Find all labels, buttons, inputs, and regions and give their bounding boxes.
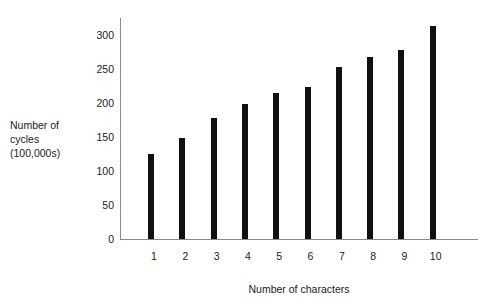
y-axis-line <box>120 18 121 240</box>
bar <box>336 67 342 239</box>
bar <box>242 104 248 239</box>
x-tick-label: 6 <box>299 251 323 262</box>
x-tick-label: 9 <box>392 251 416 262</box>
y-tick-label: 150 <box>74 132 114 143</box>
plot-area: 12345678910 <box>120 18 478 240</box>
y-tick-label: 100 <box>74 166 114 177</box>
bar <box>367 57 373 239</box>
y-tick-label: 200 <box>74 98 114 109</box>
y-tick-label: 250 <box>74 64 114 75</box>
x-tick-label: 4 <box>236 251 260 262</box>
x-tick-label: 1 <box>142 251 166 262</box>
x-axis-line <box>120 239 478 240</box>
bar-chart: Number of cycles (100,000s) 050100150200… <box>0 0 495 306</box>
x-tick-label: 8 <box>361 251 385 262</box>
bar <box>430 26 436 239</box>
y-tick-label-group: 050100150200250300 <box>72 18 114 240</box>
x-tick-label: 7 <box>330 251 354 262</box>
y-tick-label: 0 <box>74 234 114 245</box>
x-tick-label: 2 <box>173 251 197 262</box>
y-tick-label: 300 <box>74 30 114 41</box>
bar <box>273 93 279 239</box>
x-axis-title: Number of characters <box>120 283 478 295</box>
x-tick-label: 10 <box>424 251 448 262</box>
x-tick-label: 5 <box>267 251 291 262</box>
bar <box>211 118 217 239</box>
bar <box>398 50 404 239</box>
y-tick-label: 50 <box>74 200 114 211</box>
x-tick-label: 3 <box>205 251 229 262</box>
bar <box>148 154 154 239</box>
bar <box>179 138 185 239</box>
bar <box>305 87 311 239</box>
